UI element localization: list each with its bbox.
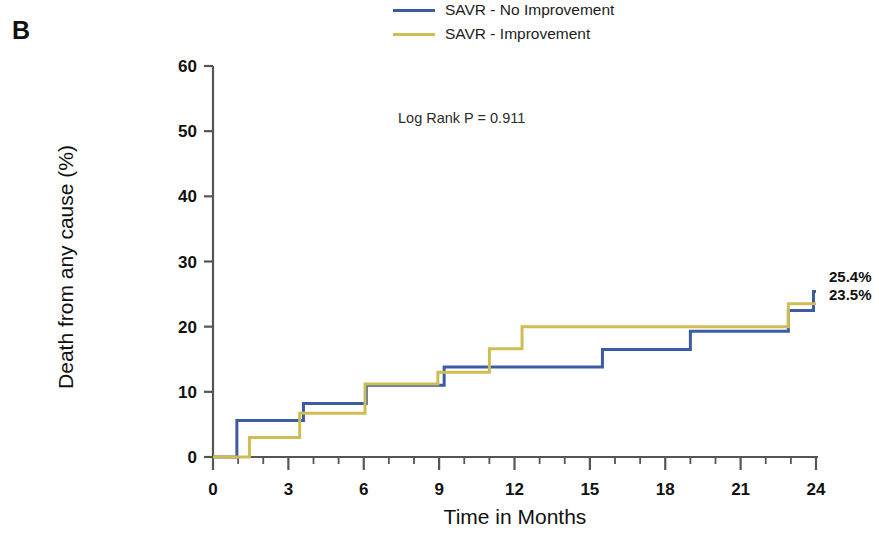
x-axis-tick-label: 21 [731, 480, 750, 499]
x-axis-tick-label: 0 [208, 480, 217, 499]
kaplan-meier-plot: 010203040506003691215182124 [0, 0, 879, 535]
x-axis-tick-label: 24 [807, 480, 826, 499]
x-axis-tick-label: 18 [656, 480, 675, 499]
x-axis-tick-label: 12 [505, 480, 524, 499]
y-axis-tick-label: 30 [178, 253, 197, 272]
y-axis-tick-label: 50 [178, 122, 197, 141]
series-line-savr-no-improvement [213, 291, 816, 457]
y-axis-tick-label: 0 [188, 448, 197, 467]
y-axis-tick-label: 60 [178, 57, 197, 76]
endpoint-value-labels: 25.4% 23.5% [829, 268, 872, 303]
y-axis-tick-label: 40 [178, 187, 197, 206]
x-axis-tick-label: 9 [434, 480, 443, 499]
figure-panel-b: B SAVR - No Improvement SAVR - Improveme… [0, 0, 879, 535]
endpoint-label-no-improvement: 25.4% [829, 268, 872, 286]
x-axis-tick-label: 3 [284, 480, 293, 499]
x-axis-title: Time in Months [213, 505, 817, 529]
y-axis-tick-label: 20 [178, 318, 197, 337]
x-axis-tick-label: 6 [359, 480, 368, 499]
y-axis-title: Death from any cause (%) [54, 117, 78, 417]
endpoint-label-improvement: 23.5% [829, 286, 872, 304]
x-axis-tick-label: 15 [580, 480, 599, 499]
y-axis-tick-label: 10 [178, 383, 197, 402]
series-line-savr-improvement [213, 304, 816, 457]
